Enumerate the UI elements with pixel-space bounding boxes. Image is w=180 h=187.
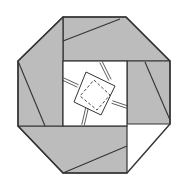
- left-flap: [18, 17, 63, 126]
- bottom-flap: [18, 126, 127, 173]
- diagram-canvas: [0, 0, 180, 187]
- top-flap: [63, 17, 170, 61]
- origami-diagram: [0, 0, 180, 187]
